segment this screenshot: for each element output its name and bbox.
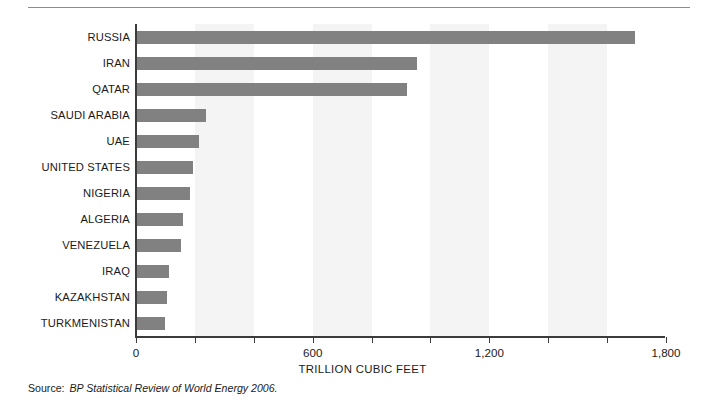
x-tick-mark: [372, 337, 373, 343]
x-tick-mark: [313, 337, 314, 343]
bar-algeria: [136, 213, 183, 226]
source-note: Source:BP Statistical Review of World En…: [28, 382, 278, 394]
category-label: NIGERIA: [0, 187, 130, 199]
bar-qatar: [136, 83, 407, 96]
plot-canvas: [136, 24, 666, 336]
bar-series: [136, 24, 666, 336]
bar-united-states: [136, 161, 193, 174]
bar-turkmenistan: [136, 317, 165, 330]
category-label: IRAQ: [0, 265, 130, 277]
x-tick-label: 0: [133, 346, 139, 359]
x-axis-title-text: TRILLION CUBIC FEET: [299, 363, 427, 375]
category-axis-labels: RUSSIAIRANQATARSAUDI ARABIAUAEUNITED STA…: [0, 24, 130, 336]
x-tick-mark: [607, 337, 608, 343]
bar-uae: [136, 135, 199, 148]
category-label: VENEZUELA: [0, 239, 130, 251]
bar-russia: [136, 31, 635, 44]
x-tick-mark: [195, 337, 196, 343]
category-label: UNITED STATES: [0, 161, 130, 173]
x-axis-line: [135, 336, 665, 338]
category-label: SAUDI ARABIA: [0, 109, 130, 121]
bar-iran: [136, 57, 417, 70]
x-tick-mark: [489, 337, 490, 343]
x-tick-label: 1,200: [475, 346, 504, 359]
bar-venezuela: [136, 239, 181, 252]
chart-plot-area: RUSSIAIRANQATARSAUDI ARABIAUAEUNITED STA…: [0, 24, 713, 344]
category-label: UAE: [0, 135, 130, 147]
x-tick-mark: [254, 337, 255, 343]
category-label: TURKMENISTAN: [0, 317, 130, 329]
category-label: IRAN: [0, 57, 130, 69]
x-axis-title: TRILLION CUBIC FEET: [0, 363, 713, 375]
bar-iraq: [136, 265, 169, 278]
bar-kazakhstan: [136, 291, 167, 304]
category-label: ALGERIA: [0, 213, 130, 225]
bar-saudi-arabia: [136, 109, 206, 122]
category-label: RUSSIA: [0, 31, 130, 43]
bar-nigeria: [136, 187, 190, 200]
x-tick-mark: [136, 337, 137, 343]
natural-gas-reserves-figure: RUSSIAIRANQATARSAUDI ARABIAUAEUNITED STA…: [0, 0, 713, 404]
category-label: KAZAKHSTAN: [0, 291, 130, 303]
x-tick-mark: [548, 337, 549, 343]
top-divider-rule: [28, 7, 690, 8]
x-tick-label: 1,800: [651, 346, 680, 359]
category-label: QATAR: [0, 83, 130, 95]
x-tick-mark: [666, 337, 667, 343]
source-citation: BP Statistical Review of World Energy 20…: [70, 382, 278, 394]
y-axis-line: [135, 24, 137, 336]
x-tick-mark: [430, 337, 431, 343]
source-label: Source:: [28, 382, 65, 394]
x-tick-label: 600: [303, 346, 322, 359]
